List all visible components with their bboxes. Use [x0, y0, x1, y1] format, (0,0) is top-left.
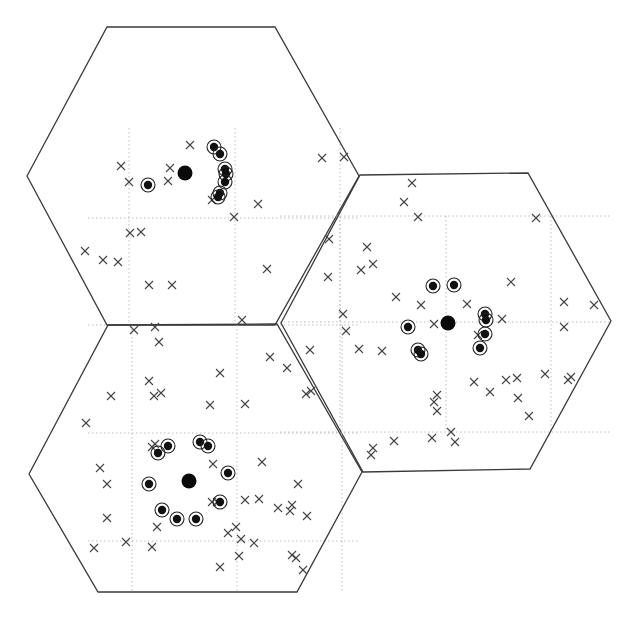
- base-station-icon: [182, 474, 197, 489]
- cross-icon: [430, 320, 438, 328]
- cross-icon: [414, 213, 422, 221]
- cross-icon: [590, 301, 598, 309]
- cross-icon: [155, 338, 163, 346]
- cross-icon: [157, 389, 165, 397]
- cross-icon: [339, 310, 347, 318]
- cross-icon: [560, 298, 568, 306]
- served-user-icon: [221, 466, 235, 480]
- cross-icon: [292, 554, 300, 562]
- cross-icon: [408, 179, 416, 187]
- cross-icon: [451, 438, 459, 446]
- cross-icon: [355, 345, 363, 353]
- served-user-icon: [201, 439, 215, 453]
- cross-icon: [216, 369, 224, 377]
- cross-icon: [237, 535, 245, 543]
- cross-icon: [288, 551, 296, 559]
- cross-icon: [241, 496, 249, 504]
- served-user-icon: [426, 279, 440, 293]
- cross-icon: [145, 377, 153, 385]
- cross-icon: [82, 419, 90, 427]
- cross-icon: [486, 388, 494, 396]
- cross-icon: [216, 563, 224, 571]
- cross-icon: [532, 214, 540, 222]
- cross-icon: [209, 460, 217, 468]
- cross-icon: [470, 378, 478, 386]
- cross-icon: [541, 370, 549, 378]
- cross-icon: [186, 141, 194, 149]
- cross-icon: [153, 523, 161, 531]
- cross-icon: [117, 162, 125, 170]
- cross-icon: [498, 315, 506, 323]
- cross-icon: [238, 316, 246, 324]
- served-user-icon: [478, 327, 492, 341]
- cross-icon: [342, 327, 350, 335]
- cross-icon: [266, 353, 274, 361]
- cross-icon: [369, 444, 377, 452]
- base-station-icon: [441, 316, 456, 331]
- cross-icon: [433, 391, 441, 399]
- served-user-icon: [213, 495, 227, 509]
- cross-icon: [145, 281, 153, 289]
- cross-icon: [263, 265, 271, 273]
- served-user-icon: [151, 446, 165, 460]
- cells-layer: [27, 27, 611, 592]
- cross-icon: [81, 247, 89, 255]
- cross-icon: [122, 538, 130, 546]
- cross-icon: [103, 514, 111, 522]
- cross-icon: [390, 437, 398, 445]
- cross-icon: [507, 278, 515, 286]
- cross-icon: [224, 529, 232, 537]
- cell-top-left: [27, 27, 360, 325]
- cross-icon: [232, 523, 240, 531]
- served-user-icon: [447, 278, 461, 292]
- cell-boundary: [27, 27, 359, 325]
- cross-icon: [103, 480, 111, 488]
- cross-icon: [148, 543, 156, 551]
- cross-icon: [166, 164, 174, 172]
- cross-icon: [96, 464, 104, 472]
- served-user-icon: [161, 439, 175, 453]
- hexagonal-cell-diagram: [0, 0, 637, 624]
- cross-icon: [283, 364, 291, 372]
- cross-icon: [150, 392, 158, 400]
- cross-icon: [235, 552, 243, 560]
- cross-icon: [400, 198, 408, 206]
- cross-icon: [302, 390, 310, 398]
- base-station-icon: [178, 166, 193, 181]
- cross-icon: [254, 200, 262, 208]
- cross-icon: [294, 480, 302, 488]
- cross-icon: [357, 266, 365, 274]
- served-user-icon: [141, 178, 155, 192]
- cross-icon: [250, 539, 258, 547]
- cell-right: [280, 173, 611, 472]
- served-user-icon: [170, 512, 184, 526]
- cross-icon: [430, 398, 438, 406]
- cross-icon: [564, 376, 572, 384]
- cross-icon: [502, 376, 510, 384]
- cross-icon: [99, 256, 107, 264]
- cross-icon: [299, 566, 307, 574]
- cross-icon: [126, 229, 134, 237]
- cross-icon: [303, 512, 311, 520]
- cross-icon: [340, 153, 348, 161]
- served-user-icon: [142, 477, 156, 491]
- cross-icon: [514, 394, 522, 402]
- cross-icon: [369, 260, 377, 268]
- cross-icon: [433, 407, 441, 415]
- cross-icon: [230, 213, 238, 221]
- cross-icon: [318, 154, 326, 162]
- cross-icon: [164, 177, 172, 185]
- cross-icon: [114, 258, 122, 266]
- cross-icon: [255, 495, 263, 503]
- grid-lines: [88, 128, 360, 325]
- served-user-icon: [473, 341, 487, 355]
- cross-icon: [130, 326, 138, 334]
- cross-icon: [324, 273, 332, 281]
- cross-icon: [417, 301, 425, 309]
- cross-icon: [90, 544, 98, 552]
- cross-icon: [513, 374, 521, 382]
- cross-icon: [241, 400, 249, 408]
- cross-icon: [428, 434, 436, 442]
- cross-icon: [306, 346, 314, 354]
- cell-boundary: [29, 324, 362, 592]
